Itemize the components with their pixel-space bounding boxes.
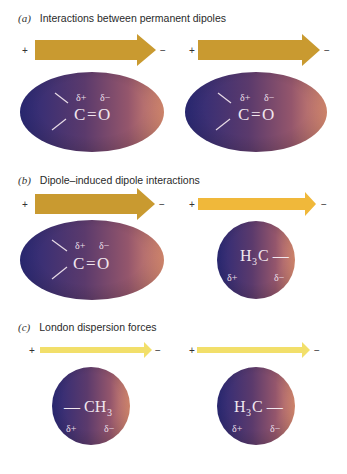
panel-c-left-dipole-arrow: + − xyxy=(29,342,161,358)
panel-b-right-dipole-arrow: + − xyxy=(189,192,327,216)
delta-minus: δ− xyxy=(270,423,281,434)
delta-plus: δ+ xyxy=(76,92,87,103)
delta-minus: δ− xyxy=(99,240,110,251)
panel-b-right-molecule: H 3 C — δ+ δ− xyxy=(217,221,295,299)
plus-sign: + xyxy=(189,199,195,210)
formula-o: O xyxy=(98,105,110,124)
minus-sign: − xyxy=(314,345,320,356)
formula-bond: = xyxy=(251,105,261,124)
minus-sign: − xyxy=(160,45,166,56)
dipole-arrow-icon xyxy=(198,34,320,66)
minus-sign: − xyxy=(324,45,330,56)
delta-plus: δ+ xyxy=(75,240,86,251)
plus-sign: + xyxy=(189,345,195,356)
plus-sign: + xyxy=(22,45,28,56)
minus-sign: − xyxy=(159,199,165,210)
formula-tail: C — xyxy=(258,247,290,264)
formula-subscript: 3 xyxy=(107,407,112,418)
formula-c: C xyxy=(238,105,249,124)
dipole-arrow-icon xyxy=(35,34,156,66)
formula-c: C xyxy=(74,105,85,124)
formula-o: O xyxy=(262,105,274,124)
panel-b-left-dipole-arrow: + − xyxy=(22,188,165,220)
delta-minus: δ− xyxy=(104,423,115,434)
delta-plus: δ+ xyxy=(66,423,77,434)
diagram-canvas: + − δ+ δ− C = O + − δ+ δ− C = O + − xyxy=(0,0,347,474)
formula-h: H xyxy=(234,398,246,415)
delta-minus: δ− xyxy=(100,92,111,103)
panel-c-right-molecule: H 3 C — δ+ δ− xyxy=(217,367,295,445)
formula-tail: C — xyxy=(252,398,284,415)
panel-c-right-dipole-arrow: + − xyxy=(189,342,320,358)
panel-a-left-molecule: δ+ δ− C = O xyxy=(20,72,164,152)
formula-bond: = xyxy=(86,254,96,273)
dipole-arrow-icon xyxy=(198,192,316,216)
dipole-arrow-icon xyxy=(197,342,310,358)
formula-c: C xyxy=(73,254,84,273)
delta-minus: δ− xyxy=(264,92,275,103)
delta-minus: δ− xyxy=(274,272,285,283)
dipole-arrow-icon xyxy=(40,342,152,358)
panel-c-left-molecule: — CH 3 δ+ δ− xyxy=(52,367,130,445)
formula-subscript: 3 xyxy=(246,407,251,418)
panel-b-left-molecule: δ+ δ− C = O xyxy=(20,220,164,300)
plus-sign: + xyxy=(29,345,35,356)
panel-a-right-molecule: δ+ δ− C = O xyxy=(185,72,327,152)
panel-a-right-dipole-arrow: + − xyxy=(189,34,330,66)
minus-sign: − xyxy=(321,199,327,210)
delta-plus: δ+ xyxy=(240,92,251,103)
formula-head: — CH xyxy=(63,398,107,415)
delta-plus: δ+ xyxy=(227,272,238,283)
plus-sign: + xyxy=(189,45,195,56)
formula-o: O xyxy=(97,254,109,273)
plus-sign: + xyxy=(22,199,28,210)
minus-sign: − xyxy=(155,345,161,356)
panel-a-left-dipole-arrow: + − xyxy=(22,34,166,66)
formula-bond: = xyxy=(87,105,97,124)
formula-h: H xyxy=(240,247,252,264)
delta-plus: δ+ xyxy=(232,423,243,434)
dipole-arrow-icon xyxy=(35,188,155,220)
formula-subscript: 3 xyxy=(252,256,257,267)
